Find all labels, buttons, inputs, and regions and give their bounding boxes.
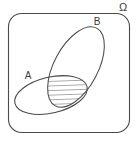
set-a-label: A [25,70,32,81]
universe-omega-label: Ω [119,1,127,13]
venn-diagram-figure: A B Ω [0,0,138,143]
set-b-label: B [94,16,101,27]
set-b-ellipse [36,18,116,116]
venn-diagram-canvas: A B Ω [0,0,138,143]
